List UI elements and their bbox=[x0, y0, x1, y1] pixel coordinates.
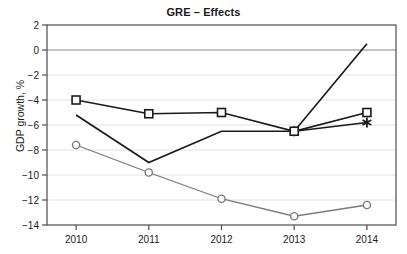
marker-square bbox=[290, 127, 298, 135]
marker-circle bbox=[218, 195, 225, 202]
y-tick-label: −6 bbox=[28, 120, 40, 131]
marker-square bbox=[218, 109, 226, 117]
series-line bbox=[294, 123, 367, 132]
y-tick-label: −8 bbox=[28, 145, 40, 156]
y-tick-label: −10 bbox=[22, 170, 39, 181]
series-square-series bbox=[72, 96, 371, 135]
marker-circle bbox=[145, 169, 152, 176]
series-line bbox=[76, 145, 367, 216]
series-circle-series bbox=[72, 141, 370, 219]
y-tick-label: −2 bbox=[28, 70, 40, 81]
marker-circle bbox=[291, 213, 298, 220]
x-axis-ticks: 20102011201220132014 bbox=[65, 225, 379, 245]
x-tick-label: 2011 bbox=[138, 234, 160, 245]
series-asterisk-series bbox=[290, 118, 371, 137]
marker-square bbox=[145, 110, 153, 118]
series-plain-line-series bbox=[76, 44, 367, 163]
marker-square bbox=[363, 109, 371, 117]
grid-lines bbox=[47, 75, 396, 200]
plot-area: 20−2−4−6−8−10−12−14 20102011201220132014 bbox=[0, 0, 407, 254]
y-tick-label: −12 bbox=[22, 195, 39, 206]
marker-circle bbox=[72, 141, 79, 148]
data-series-layer bbox=[72, 44, 371, 220]
marker-circle bbox=[363, 201, 370, 208]
y-tick-label: −14 bbox=[22, 220, 39, 231]
x-tick-label: 2010 bbox=[65, 234, 88, 245]
y-tick-label: −4 bbox=[28, 95, 40, 106]
y-axis-ticks: 20−2−4−6−8−10−12−14 bbox=[22, 20, 47, 231]
x-tick-label: 2013 bbox=[283, 234, 306, 245]
series-line bbox=[76, 44, 367, 163]
y-tick-label: 0 bbox=[33, 45, 39, 56]
marker-square bbox=[72, 96, 80, 104]
chart-container: GRE – Effects GDP growth, % 20−2−4−6−8−1… bbox=[0, 0, 407, 254]
x-tick-label: 2012 bbox=[210, 234, 233, 245]
x-tick-label: 2014 bbox=[356, 234, 379, 245]
y-tick-label: 2 bbox=[33, 20, 39, 31]
